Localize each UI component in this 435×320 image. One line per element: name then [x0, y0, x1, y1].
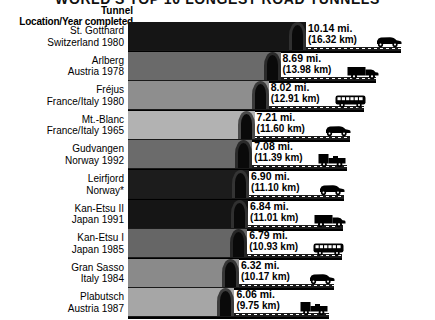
tunnel-location-year: Japan 1991 [0, 214, 124, 226]
tunnel-row: ArlbergAustria 19788.69 mi.(13.98 km) [0, 52, 435, 84]
tunnel-bar-fill [128, 81, 269, 109]
tunnel-bar [128, 200, 248, 228]
tunnel-portal [222, 259, 239, 287]
tunnel-label: Gran SassoItaly 1984 [0, 262, 124, 285]
tunnel-location-year: Austria 1978 [0, 66, 124, 78]
tunnel-name: Mt.-Blanc [0, 114, 124, 126]
tunnel-length-km: (11.39 km) [254, 152, 302, 163]
tunnel-row: Gran SassoItaly 19846.32 mi.(10.17 km) [0, 259, 435, 291]
tunnel-location-year: France/Italy 1980 [0, 96, 124, 108]
tunnel-portal [238, 111, 255, 139]
car-icon [372, 35, 402, 48]
tunnel-length-label: 7.21 mi.(11.60 km) [257, 112, 305, 134]
tunnel-label: PlabutschAustria 1987 [0, 291, 124, 314]
tunnel-location-year: Norway* [0, 185, 124, 197]
tunnel-bar [128, 52, 281, 80]
tunnel-name: Leirfjord [0, 173, 124, 185]
tunnel-name: Plabutsch [0, 291, 124, 303]
tunnel-name: Kan-Etsu I [0, 232, 124, 244]
tunnel-bar-fill [128, 200, 248, 228]
tunnel-label: LeirfjordNorway* [0, 173, 124, 196]
tunnel-length-km: (11.01 km) [250, 212, 298, 223]
tunnel-portal [264, 52, 281, 80]
tunnel-bar [128, 288, 234, 316]
bus-icon [313, 242, 345, 256]
tunnel-bar [128, 170, 249, 198]
tunnel-name: Arlberg [0, 55, 124, 67]
tunnel-bar [128, 259, 239, 287]
pickup-icon [300, 301, 330, 316]
tunnel-portal [252, 81, 269, 109]
tunnel-location-year: Norway 1992 [0, 155, 124, 167]
tunnel-length-km: (12.91 km) [271, 93, 320, 104]
tunnel-name: Gudvangen [0, 143, 124, 155]
tunnel-length-km: (11.10 km) [251, 182, 299, 193]
tunnel-label: GudvangenNorway 1992 [0, 143, 124, 166]
tunnel-length-miles: 7.08 mi. [254, 141, 302, 152]
column-header-line1: Tunnel [101, 5, 133, 16]
tunnel-length-label: 7.08 mi.(11.39 km) [254, 141, 302, 163]
tunnel-name: Fréjus [0, 84, 124, 96]
tunnel-portal [235, 140, 252, 168]
tunnel-bar [128, 22, 306, 50]
tunnel-length-miles: 7.21 mi. [257, 112, 305, 123]
tunnel-length-label: 6.90 mi.(11.10 km) [251, 171, 299, 193]
tunnel-length-km: (9.75 km) [236, 300, 279, 311]
tunnel-length-miles: 8.69 mi. [283, 53, 332, 64]
tunnel-label: Mt.-BlancFrance/Italy 1965 [0, 114, 124, 137]
tunnel-length-label: 6.32 mi.(10.17 km) [241, 260, 290, 282]
bus-icon [335, 94, 367, 108]
tunnel-bar-fill [128, 22, 306, 50]
car-icon [315, 183, 345, 196]
tunnel-row: St. GotthardSwitzerland 198010.14 mi.(16… [0, 22, 435, 54]
tunnel-bar [128, 140, 252, 168]
tunnel-length-km: (10.17 km) [241, 271, 290, 282]
tunnel-bar [128, 229, 247, 257]
tunnel-length-label: 8.69 mi.(13.98 km) [283, 53, 332, 75]
tunnel-length-km: (11.60 km) [257, 123, 305, 134]
tunnel-row: Kan-Etsu IJapan 19856.79 mi.(10.93 km) [0, 229, 435, 261]
tunnel-portal [232, 170, 249, 198]
tunnel-location-year: Austria 1987 [0, 303, 124, 315]
tunnel-label: St. GotthardSwitzerland 1980 [0, 25, 124, 48]
car-icon [321, 124, 351, 137]
tunnel-bar-fill [128, 111, 255, 139]
tunnel-label: Kan-Etsu IIJapan 1991 [0, 203, 124, 226]
tunnel-row: GudvangenNorway 19927.08 mi.(11.39 km) [0, 140, 435, 172]
tunnel-bar [128, 81, 269, 109]
truck-icon [347, 65, 379, 80]
tunnel-length-miles: 6.32 mi. [241, 260, 290, 271]
tunnel-length-km: (13.98 km) [283, 64, 332, 75]
tunnel-location-year: France/Italy 1965 [0, 125, 124, 137]
tunnel-length-miles: 10.14 mi. [308, 23, 357, 34]
tunnel-portal [217, 288, 234, 316]
tunnel-bar-fill [128, 170, 249, 198]
tunnel-label: ArlbergAustria 1978 [0, 55, 124, 78]
tunnel-bar-fill [128, 52, 281, 80]
tunnel-portal [230, 229, 247, 257]
tunnel-length-miles: 8.02 mi. [271, 82, 320, 93]
tunnel-name: Gran Sasso [0, 262, 124, 274]
tunnel-length-label: 6.06 mi.(9.75 km) [236, 289, 279, 311]
tunnel-length-miles: 6.79 mi. [249, 230, 298, 241]
tunnel-location-year: Japan 1985 [0, 244, 124, 256]
tunnel-portal [289, 22, 306, 50]
pickup-icon [318, 153, 348, 168]
car-icon [305, 272, 335, 285]
tunnel-location-year: Switzerland 1980 [0, 37, 124, 49]
tunnel-location-year: Italy 1984 [0, 273, 124, 285]
tunnel-length-miles: 6.90 mi. [251, 171, 299, 182]
tunnel-row: PlabutschAustria 19876.06 mi.(9.75 km) [0, 288, 435, 320]
tunnel-name: Kan-Etsu II [0, 203, 124, 215]
tunnel-length-label: 6.84 mi.(11.01 km) [250, 201, 298, 223]
tunnel-label: FréjusFrance/Italy 1980 [0, 84, 124, 107]
tunnel-bar-fill [128, 140, 252, 168]
tunnel-name: St. Gotthard [0, 25, 124, 37]
tunnel-bar [128, 111, 255, 139]
truck-icon [314, 213, 346, 228]
tunnel-length-miles: 6.06 mi. [236, 289, 279, 300]
tunnel-length-label: 6.79 mi.(10.93 km) [249, 230, 298, 252]
tunnel-row: LeirfjordNorway*6.90 mi.(11.10 km) [0, 170, 435, 202]
tunnel-length-km: (16.32 km) [308, 34, 357, 45]
tunnel-label: Kan-Etsu IJapan 1985 [0, 232, 124, 255]
